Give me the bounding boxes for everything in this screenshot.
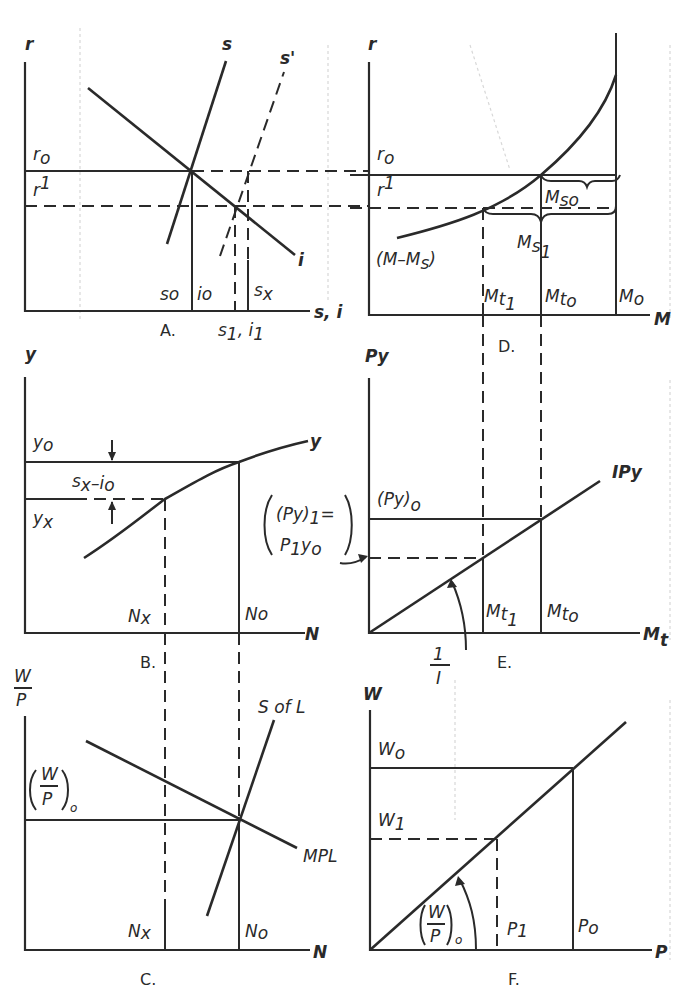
svg-text:Mso: Mso [545,187,579,210]
svg-text:Po: Po [578,916,599,938]
svg-text:No: No [245,921,268,943]
svg-text:P: P [42,789,53,809]
panel-d-money-market [350,33,650,315]
savings-curve [167,61,226,244]
svg-text:W1: W1 [378,810,406,834]
svg-text:P1: P1 [507,919,528,941]
svg-text:IPy: IPy [612,462,643,482]
svg-text:N: N [313,942,327,962]
svg-text:W: W [41,764,59,784]
panel-a-axes [25,62,310,311]
ms0-brace [541,175,620,187]
svg-text:B.: B. [140,653,156,672]
svg-text:Mto: Mto [545,286,577,311]
svg-text:Ms1: Ms1 [517,232,551,262]
svg-text:P: P [430,926,441,946]
panel-c-labor-market [25,716,310,950]
panel-f-wage-price [370,710,652,950]
svg-text:yo: yo [32,432,53,455]
svg-text:s': s' [280,48,295,68]
svg-text:r: r [25,34,35,54]
keynesian-six-panel-diagram: r ro r1 s s' i so io sx s, i s1, i1 A. r… [0,0,697,1006]
svg-text:sx: sx [254,280,274,304]
svg-text:1: 1 [433,644,444,664]
svg-text:Py: Py [365,346,389,366]
svg-text:r: r [368,34,378,54]
panel-b-production-function [25,377,308,950]
panel-d-axes [369,62,650,315]
svg-text:Wo: Wo [378,739,405,763]
svg-text:E.: E. [497,653,512,672]
svg-text:Nx: Nx [128,921,152,943]
svg-text:io: io [197,284,212,304]
svg-text:W: W [363,684,383,704]
svg-text:MPL: MPL [303,846,337,866]
svg-text:D.: D. [498,337,515,356]
svg-text:s1, i1: s1, i1 [218,320,264,344]
svg-text:ro: ro [33,144,50,168]
svg-text:F.: F. [508,970,520,989]
svg-text:W: W [14,666,32,686]
svg-text:yx: yx [32,508,54,532]
labor-supply-curve [207,720,274,916]
svg-text:Mto: Mto [547,601,579,626]
svg-text:o: o [70,801,77,815]
svg-text:W: W [428,902,446,922]
svg-text:N: N [305,624,319,644]
svg-text:r1: r1 [377,173,395,200]
svg-text:Nx: Nx [128,606,152,628]
svg-text:s, i: s, i [314,302,343,322]
svg-text:y: y [25,344,37,364]
svg-text:(Py)1=: (Py)1= [276,504,335,528]
panel-e-labels: Py IPy (Py)o (Py)1= P1yo Mt1 Mto Mt 1 I … [276,346,669,688]
svg-text:Mo: Mo [619,286,644,309]
svg-text:sx–io: sx–io [72,471,115,495]
svg-text:I: I [436,668,441,688]
svg-text:r1: r1 [33,173,51,200]
panel-d-labels: r ro r1 Mso Ms1 (M–Ms) Mt1 Mto Mo M D. [368,34,671,356]
mpl-curve [86,741,297,848]
svg-text:A.: A. [160,321,176,340]
svg-text:o: o [455,933,462,947]
svg-text:P1yo: P1yo [280,535,322,559]
svg-text:No: No [245,604,268,624]
svg-text:M: M [654,309,671,329]
svg-text:so: so [160,284,179,304]
svg-text:ro: ro [377,144,394,168]
svg-text:P: P [655,942,668,962]
svg-text:i: i [298,250,305,270]
svg-text:Mt: Mt [643,624,669,650]
svg-text:C.: C. [140,970,156,989]
panel-c-labels: W P S of L MPL W P o Nx No N C. [14,666,337,989]
svg-text:Mt1: Mt1 [486,601,518,630]
svg-text:s: s [222,34,232,54]
svg-text:y: y [310,431,322,451]
panel-f-labels: W Wo W1 W P o P1 Po P F. [363,684,668,989]
svg-text:(M–Ms): (M–Ms) [376,249,436,273]
svg-text:(Py)o: (Py)o [377,489,421,515]
shifted-savings-curve [220,72,284,256]
svg-text:S of L: S of L [258,697,305,717]
panel-e-transactions-demand [265,315,641,650]
svg-text:P: P [16,690,27,710]
svg-text:Mt1: Mt1 [484,286,516,314]
panel-a-savings-investment [25,61,370,311]
